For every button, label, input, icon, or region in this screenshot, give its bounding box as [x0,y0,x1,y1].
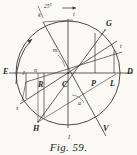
label-n-small: n [34,67,37,73]
arc-marker-m [58,55,65,67]
node-H [37,121,39,123]
steep-line-kV [43,22,106,136]
label-a-small: a [78,100,81,106]
figure-caption: Fig. 59. [0,141,137,153]
label-J-left: J [22,70,25,76]
label-k-top: k [38,12,41,18]
label-G: G [106,19,112,28]
label-i-top: i [73,11,75,17]
label-E: E [2,67,9,76]
angle-arrow-head [73,6,76,10]
label-R: R [37,80,44,89]
label-V: V [103,124,110,133]
label-H: H [32,124,40,133]
label-D: D [126,67,133,76]
label-L: L [109,79,115,88]
chord-J-s [22,82,26,101]
figure-container: 25° E J D L G C R P H V I s t n m a i k … [0,0,137,155]
node-G [104,29,106,31]
label-m-small: m [53,47,58,53]
label-C: C [62,80,68,89]
label-I-bottom: I [67,134,71,140]
chord-H-P [38,74,116,122]
node-center-C [67,72,69,74]
geometry-diagram: 25° E J D L G C R P H V I s t n m a i k [0,0,137,155]
angle-annotation-label: 25° [44,3,53,9]
label-t-right: t [120,43,122,49]
label-s-lower-left: s [16,105,19,111]
label-P: P [91,79,97,88]
